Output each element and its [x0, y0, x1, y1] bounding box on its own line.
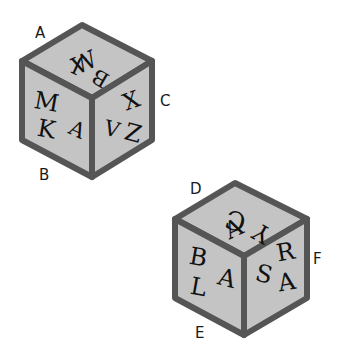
cube-diagram: J B W M K A V X Z A B C C Y A B L A R S …: [0, 0, 344, 362]
vertex-label-a: A: [35, 24, 46, 42]
vertex-label-d: D: [190, 180, 202, 198]
cube-1-left-letter: M: [32, 86, 61, 118]
cube-2: C Y A B L A R S A D E F: [175, 180, 322, 342]
vertex-label-f: F: [313, 250, 322, 268]
cube-1: J B W M K A V X Z A B C: [22, 24, 170, 184]
vertex-label-b: B: [39, 166, 49, 184]
vertex-label-c: C: [160, 92, 170, 110]
vertex-label-e: E: [195, 324, 204, 342]
